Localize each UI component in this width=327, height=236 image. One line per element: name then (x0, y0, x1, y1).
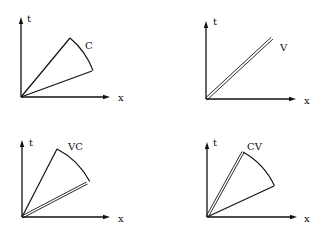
t-axis-arrow-icon (19, 17, 23, 24)
t-axis-arrow-icon (204, 21, 208, 28)
worldline-shape (205, 37, 273, 100)
x-axis-arrow-icon (103, 215, 110, 219)
light-cone-shape (21, 38, 93, 97)
cone-arc (243, 152, 274, 186)
t-axis-label: t (213, 137, 217, 148)
panel-label: CV (247, 141, 263, 152)
panel-v: t x V (204, 16, 310, 106)
worldline-edge-a (205, 37, 271, 98)
t-axis-label: t (213, 16, 217, 27)
t-axis-arrow-icon (20, 140, 24, 147)
panel-label: V (279, 42, 288, 53)
cone-arc (57, 149, 90, 182)
x-axis-arrow-icon (290, 215, 297, 219)
upper-edge-a (206, 151, 242, 216)
light-cone-shape (21, 149, 89, 218)
x-axis-arrow-icon (289, 97, 296, 101)
panel-label: C (85, 40, 93, 51)
x-axis-label: x (118, 213, 124, 224)
figure-canvas: t x C t x V t x VC t x CV (0, 0, 327, 236)
x-axis-label: x (304, 213, 310, 224)
panel-c: t x C (19, 13, 124, 103)
t-axis-arrow-icon (205, 142, 209, 149)
t-axis-label: t (29, 137, 33, 148)
x-axis-label: x (118, 92, 124, 103)
panel-vc: t x VC (20, 137, 124, 224)
light-cone-shape (206, 151, 274, 217)
t-axis-label: t (27, 13, 31, 24)
worldline-edge-b (207, 39, 273, 100)
panel-cv: t x CV (205, 137, 310, 224)
lower-edge-b (23, 184, 88, 218)
panel-label: VC (67, 141, 83, 152)
x-axis-label: x (304, 95, 310, 106)
x-axis-arrow-icon (103, 95, 110, 99)
